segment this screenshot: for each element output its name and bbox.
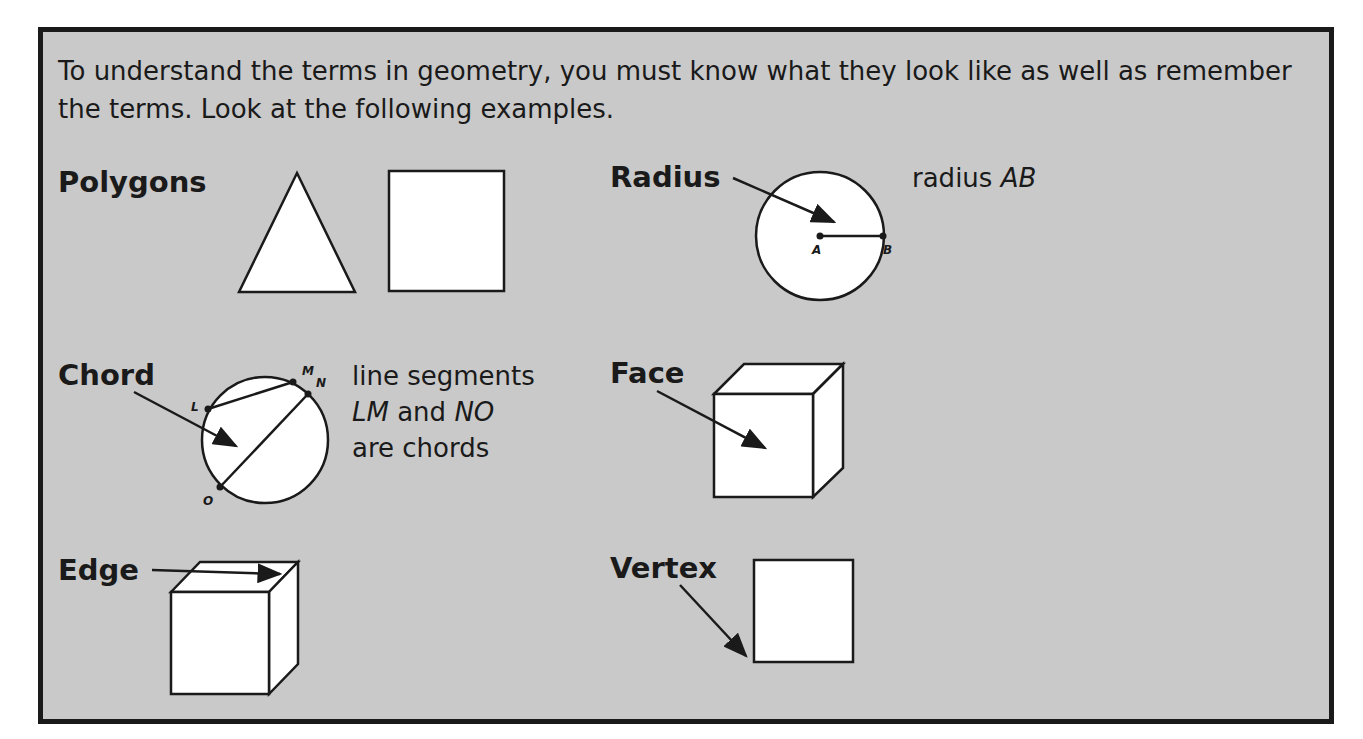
term-face: Face bbox=[610, 356, 685, 390]
term-radius: Radius bbox=[610, 160, 721, 194]
term-edge: Edge bbox=[58, 553, 139, 587]
point-label-o: O bbox=[203, 494, 213, 508]
term-vertex: Vertex bbox=[610, 551, 717, 585]
point-label-l: L bbox=[191, 400, 199, 414]
term-chord: Chord bbox=[58, 358, 155, 392]
triangle-shape bbox=[239, 173, 355, 292]
point-label-n: N bbox=[316, 376, 326, 390]
vertex-square bbox=[754, 560, 853, 662]
radius-description: radius AB bbox=[912, 160, 1036, 196]
square-shape bbox=[389, 171, 504, 291]
point-label-b: B bbox=[883, 243, 892, 257]
term-polygons: Polygons bbox=[58, 165, 207, 199]
vertex-arrow bbox=[680, 585, 746, 656]
point-label-a: A bbox=[812, 243, 821, 257]
point-label-m: M bbox=[302, 364, 314, 378]
chord-description: line segments LM and NO are chords bbox=[352, 358, 535, 466]
